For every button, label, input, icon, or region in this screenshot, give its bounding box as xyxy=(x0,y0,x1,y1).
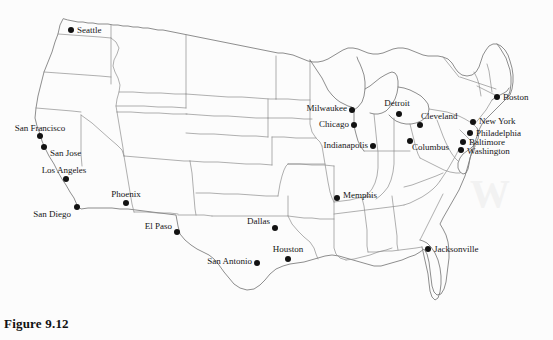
city-label-los-angeles: Los Angeles xyxy=(42,166,87,175)
city-label-san-antonio: San Antonio xyxy=(207,257,252,266)
city-label-cleveland: Cleveland xyxy=(421,112,458,121)
city-label-boston: Boston xyxy=(503,93,529,102)
city-marker-boston[interactable] xyxy=(494,94,500,100)
city-marker-milwaukee[interactable] xyxy=(349,107,355,113)
city-label-washington: Washington xyxy=(467,147,510,156)
city-label-detroit: Detroit xyxy=(384,99,410,108)
city-marker-san-diego[interactable] xyxy=(74,204,80,210)
city-marker-cleveland[interactable] xyxy=(417,122,423,128)
figure-page: W xyxy=(0,0,553,340)
city-marker-washington[interactable] xyxy=(458,147,464,153)
city-marker-baltimore[interactable] xyxy=(460,139,466,145)
city-label-memphis: Memphis xyxy=(343,191,377,200)
city-label-indianapolis: Indianapolis xyxy=(324,141,369,150)
city-label-houston: Houston xyxy=(273,245,304,254)
city-label-san-jose: San Jose xyxy=(50,149,81,158)
figure-caption: Figure 9.12 xyxy=(4,316,69,332)
city-label-jacksonville: Jacksonville xyxy=(434,245,479,254)
city-marker-san-jose[interactable] xyxy=(41,144,47,150)
city-label-el-paso: El Paso xyxy=(145,222,172,231)
city-marker-detroit[interactable] xyxy=(396,111,402,117)
city-marker-jacksonville[interactable] xyxy=(425,246,431,252)
city-marker-el-paso[interactable] xyxy=(174,229,180,235)
city-label-dallas: Dallas xyxy=(247,217,270,226)
city-label-milwaukee: Milwaukee xyxy=(307,104,348,113)
city-marker-philadelphia[interactable] xyxy=(467,130,473,136)
city-marker-new-york[interactable] xyxy=(470,119,476,125)
city-label-san-diego: San Diego xyxy=(33,210,71,219)
city-label-columbus: Columbus xyxy=(412,143,449,152)
city-label-phoenix: Phoenix xyxy=(111,190,141,199)
city-marker-los-angeles[interactable] xyxy=(63,176,69,182)
city-marker-memphis[interactable] xyxy=(334,195,340,201)
city-label-san-francisco: San Francisco xyxy=(15,124,66,133)
city-marker-houston[interactable] xyxy=(285,256,291,262)
city-marker-dallas[interactable] xyxy=(272,225,278,231)
city-marker-chicago[interactable] xyxy=(351,122,357,128)
city-marker-san-francisco[interactable] xyxy=(37,133,43,139)
city-marker-seattle[interactable] xyxy=(68,27,74,33)
city-marker-indianapolis[interactable] xyxy=(370,143,376,149)
city-label-chicago: Chicago xyxy=(319,120,349,129)
city-label-seattle: Seattle xyxy=(77,26,102,35)
city-marker-san-antonio[interactable] xyxy=(254,260,260,266)
city-marker-phoenix[interactable] xyxy=(123,200,129,206)
city-label-new-york: New York xyxy=(479,117,516,126)
